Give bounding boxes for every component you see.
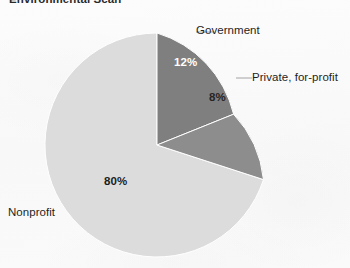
pie-chart: Government Private, for-profit Nonprofit…	[0, 0, 350, 268]
pie-label-government: Government	[196, 24, 260, 36]
pie-value-government: 12%	[174, 56, 197, 68]
pie-value-nonprofit: 80%	[104, 175, 127, 187]
pie-label-nonprofit: Nonprofit	[8, 206, 55, 218]
pie-label-private-for-profit: Private, for-profit	[252, 71, 338, 83]
pie-chart-svg	[0, 0, 350, 268]
pie-value-private-for-profit: 8%	[209, 91, 226, 103]
